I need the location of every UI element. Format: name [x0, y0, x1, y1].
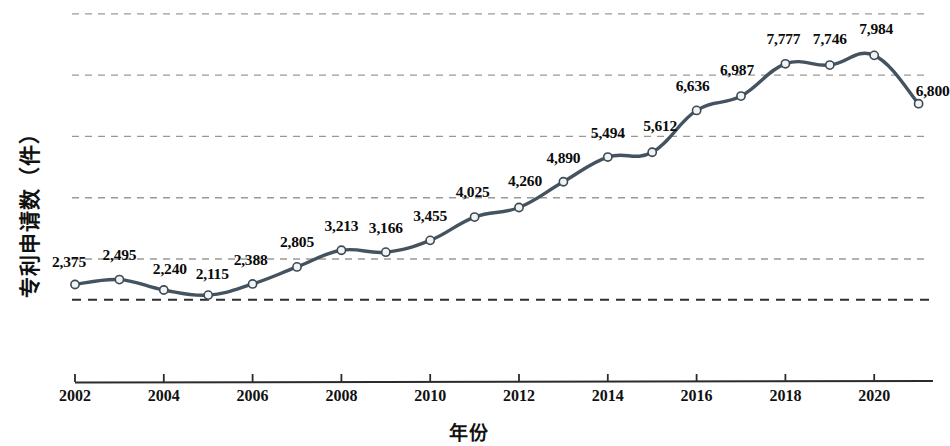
- x-tick-label-2018: 2018: [769, 387, 801, 405]
- data-point-marker: [337, 246, 345, 254]
- data-label-2009: 3,166: [369, 219, 403, 237]
- data-label-2019: 7,746: [813, 30, 847, 48]
- data-label-2021: 6,800: [916, 82, 950, 100]
- x-tick-label-2016: 2016: [681, 387, 713, 405]
- x-tick-label-2010: 2010: [414, 387, 446, 405]
- data-markers-group: [71, 51, 923, 299]
- data-label-2006: 2,388: [234, 251, 268, 269]
- x-tick-label-2002: 2002: [59, 387, 91, 405]
- data-label-2016: 6,636: [676, 77, 710, 95]
- x-axis-title: 年份: [0, 418, 938, 445]
- gridlines-group: [72, 14, 930, 300]
- data-label-2012: 4,260: [508, 172, 542, 190]
- data-label-2004: 2,240: [153, 260, 187, 278]
- x-tick-label-2004: 2004: [148, 387, 180, 405]
- data-label-2005: 2,115: [196, 265, 229, 283]
- data-label-2015: 5,612: [643, 117, 677, 135]
- x-tick-label-2014: 2014: [592, 387, 624, 405]
- data-label-2014: 5,494: [591, 124, 625, 142]
- x-axis-group: [75, 374, 933, 383]
- data-label-2020: 7,984: [859, 20, 893, 38]
- x-tick-label-2008: 2008: [325, 387, 357, 405]
- data-point-marker: [559, 178, 567, 186]
- x-tick-label-2006: 2006: [237, 387, 269, 405]
- data-label-2017: 6,987: [720, 61, 754, 79]
- data-label-2018: 7,777: [766, 30, 800, 48]
- data-label-2002: 2,375: [52, 253, 86, 271]
- data-point-marker: [471, 213, 479, 221]
- data-label-2011: 4,025: [456, 183, 490, 201]
- data-label-2007: 2,805: [280, 233, 314, 251]
- data-label-2010: 3,455: [413, 207, 447, 225]
- x-tick-label-2020: 2020: [858, 387, 890, 405]
- data-point-marker: [382, 248, 390, 256]
- data-point-marker: [604, 153, 612, 161]
- data-point-marker: [781, 60, 789, 68]
- data-point-marker: [648, 148, 656, 156]
- data-point-marker: [870, 51, 878, 59]
- x-tick-label-2012: 2012: [503, 387, 535, 405]
- data-point-marker: [293, 263, 301, 271]
- x-axis-line: [75, 381, 933, 383]
- data-point-marker: [115, 275, 123, 283]
- data-point-marker: [160, 286, 168, 294]
- y-axis-title: 专利申请数（件）: [13, 100, 43, 320]
- data-point-marker: [737, 92, 745, 100]
- data-label-2008: 3,213: [324, 217, 358, 235]
- data-point-marker: [915, 100, 923, 108]
- data-point-marker: [693, 106, 701, 114]
- data-label-2013: 4,890: [546, 149, 580, 167]
- data-point-marker: [515, 203, 523, 211]
- data-label-2003: 2,495: [102, 246, 136, 264]
- data-point-marker: [826, 61, 834, 69]
- data-point-marker: [204, 291, 212, 299]
- data-point-marker: [71, 280, 79, 288]
- data-point-marker: [426, 236, 434, 244]
- data-point-marker: [249, 280, 257, 288]
